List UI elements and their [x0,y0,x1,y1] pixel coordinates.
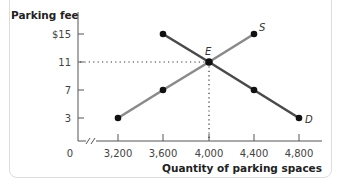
x-tick-4800: 4,800 [285,148,314,159]
x-tick-origin: 0 [67,148,73,159]
x-tick-4000: 4,000 [195,148,224,159]
y-tick-3: 3 [65,113,71,124]
x-tick-3200: 3,200 [104,148,133,159]
y-axis-title: Parking fee [11,9,79,21]
y-tick-7: 7 [65,85,71,96]
demand-curve [163,34,299,118]
demand-label: D [305,114,313,125]
axis-break-icon [86,137,96,145]
supply-label: S [259,22,266,33]
x-axis-title: Quantity of parking spaces [162,162,322,174]
x-tick-3600: 3,600 [149,148,178,159]
equilibrium-point [205,58,213,66]
supply-demand-chart: Parking fee $15 11 7 3 0 3,200 3,600 4,0… [0,0,342,191]
y-ticks: $15 11 7 3 [52,29,84,124]
x-tick-4400: 4,400 [240,148,269,159]
equilibrium-label: E [205,46,212,57]
y-tick-11: 11 [58,57,71,68]
x-ticks: 0 3,200 3,600 4,000 4,400 4,800 [67,134,314,159]
y-tick-15: $15 [52,29,71,40]
